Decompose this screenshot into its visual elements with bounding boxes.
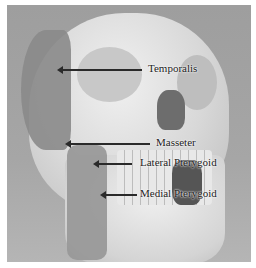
label-medial-pterygoid: Medial Pterygoid xyxy=(140,187,217,199)
label-masseter: Masseter xyxy=(156,136,196,148)
medial-pterygoid-arrow xyxy=(105,194,137,196)
right-orbit xyxy=(77,47,142,102)
skull-photo xyxy=(7,5,251,262)
temporalis-muscle-overlay xyxy=(21,30,71,150)
masseter-arrow xyxy=(70,143,150,145)
lateral-pterygoid-arrow xyxy=(98,163,132,165)
temporalis-arrow xyxy=(62,69,142,71)
nasal-cavity xyxy=(157,90,185,130)
label-temporalis: Temporalis xyxy=(148,62,197,74)
label-lateral-pterygoid: Lateral Pterygoid xyxy=(140,156,217,168)
